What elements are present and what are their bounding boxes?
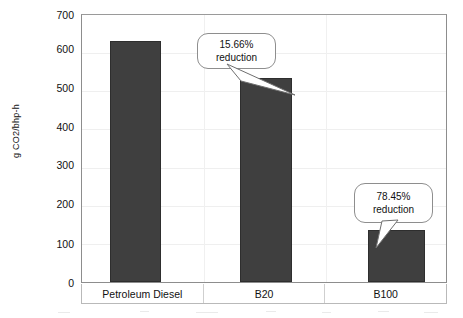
callout-label: reduction bbox=[373, 203, 414, 216]
y-tick-label: 300 bbox=[38, 160, 74, 170]
y-tick-label: 200 bbox=[38, 199, 74, 209]
x-axis-category-labels: Petroleum Diesel B20 B100 bbox=[81, 284, 447, 304]
y-axis-title: g CO2/bhp-h bbox=[11, 71, 21, 191]
scan-artifact bbox=[378, 311, 389, 312]
callout-tail-b100 bbox=[352, 218, 402, 250]
scan-artifact bbox=[140, 311, 149, 312]
category-label-b100: B100 bbox=[325, 284, 446, 303]
scan-artifact bbox=[196, 312, 218, 313]
y-axis-tick-labels: 700 600 500 400 300 200 100 0 bbox=[38, 0, 74, 318]
scan-artifact bbox=[424, 312, 438, 313]
y-tick-label: 400 bbox=[38, 122, 74, 132]
category-label-b20: B20 bbox=[204, 284, 326, 303]
y-tick-label: 100 bbox=[38, 239, 74, 249]
bar-chart-figure: g CO2/bhp-h 700 600 500 400 300 200 100 … bbox=[0, 0, 463, 318]
scan-artifact bbox=[266, 311, 276, 312]
callout-tail-b20 bbox=[225, 62, 300, 102]
scan-artifact bbox=[58, 312, 70, 313]
callout-b100-reduction: 78.45% reduction bbox=[354, 183, 433, 223]
callout-percent: 15.66% bbox=[220, 38, 254, 51]
category-label-petroleum-diesel: Petroleum Diesel bbox=[82, 284, 204, 303]
scan-artifact bbox=[322, 312, 331, 313]
y-tick-label: 0 bbox=[38, 278, 74, 288]
y-tick-label: 600 bbox=[38, 44, 74, 54]
callout-percent: 78.45% bbox=[377, 190, 411, 203]
bar-petroleum-diesel bbox=[110, 41, 161, 282]
category-separator bbox=[326, 15, 327, 282]
y-tick-label: 500 bbox=[38, 83, 74, 93]
bar-b20 bbox=[240, 78, 292, 282]
y-tick-label: 700 bbox=[38, 10, 74, 20]
